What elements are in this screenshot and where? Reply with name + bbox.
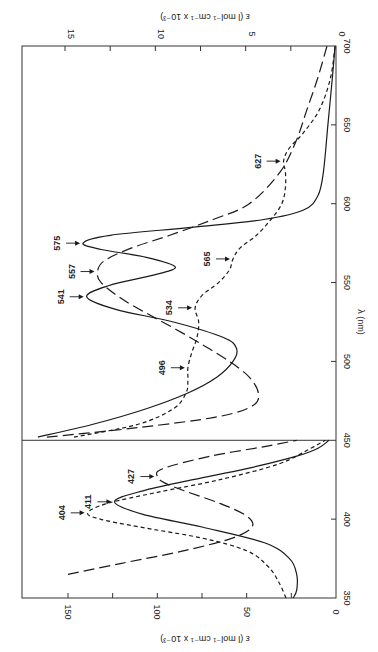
right-y-tick-label: 10 (156, 29, 166, 39)
left-y-tick-label: 50 (242, 607, 252, 617)
peak-label-404: 404 (57, 505, 67, 520)
annotation-arrowhead (180, 365, 185, 370)
annotation-arrowhead (90, 269, 95, 274)
curve-solid-right (38, 46, 335, 437)
peak-label-541: 541 (56, 289, 66, 304)
peak-label-427: 427 (126, 469, 136, 484)
x-tick-label: 650 (342, 117, 352, 132)
x-axis-label: λ (nm) (356, 309, 366, 335)
peak-label-411: 411 (83, 495, 93, 510)
left-y-tick-label: 100 (152, 604, 162, 619)
annotation-arrowhead (149, 474, 154, 479)
x-tick-label: 550 (342, 275, 352, 290)
peak-label-575: 575 (52, 236, 62, 251)
peak-label-627: 627 (253, 154, 263, 169)
peak-label-557: 557 (67, 264, 77, 279)
peak-annotations: 404411427496534541557565575627 (52, 154, 281, 521)
x-tick-label: 450 (342, 433, 352, 448)
spectrum-curves (38, 46, 335, 598)
right-y-tick-label: 5 (247, 31, 257, 36)
x-tick-label: 600 (342, 196, 352, 211)
x-tick-label: 700 (342, 38, 352, 53)
axis-labels: λ (nm) ε (l mol⁻¹ cm⁻¹ x 10⁻³) ε (l mol⁻… (160, 12, 366, 644)
plot-border (22, 46, 336, 598)
right-y-tick-label: 15 (66, 29, 76, 39)
left-y-tick-label: 150 (63, 604, 73, 619)
left-y-tick-label: 0 (331, 609, 341, 614)
curve-short-dash-left (88, 440, 326, 598)
curve-solid-left (115, 440, 329, 598)
annotation-arrowhead (276, 159, 281, 164)
x-tick-label: 400 (342, 512, 352, 527)
axis-ticks: 350400450500550600650700050100150051015 (63, 29, 352, 620)
annotation-arrowhead (187, 305, 192, 310)
x-tick-label: 350 (342, 590, 352, 605)
x-tick-label: 500 (342, 354, 352, 369)
plot-frame (22, 46, 336, 598)
annotation-arrowhead (79, 294, 84, 299)
peak-label-496: 496 (157, 360, 167, 375)
peak-label-534: 534 (164, 300, 174, 315)
absorption-spectrum-chart: 350400450500550600650700050100150051015 … (0, 0, 378, 652)
annotation-arrowhead (225, 256, 230, 261)
annotation-arrowhead (80, 510, 85, 515)
curve-short-dash-right (74, 46, 335, 437)
curve-long-dash-left (68, 440, 297, 574)
left-y-axis-label: ε (l mol⁻¹ cm⁻¹ x 10⁻³) (160, 634, 250, 644)
annotation-arrowhead (75, 241, 80, 246)
right-y-tick-label: 0 (337, 31, 347, 36)
peak-label-565: 565 (202, 251, 212, 266)
curve-long-dash-right (47, 46, 327, 437)
right-y-axis-label: ε (l mol⁻¹ cm⁻¹ x 10⁻³) (160, 12, 250, 22)
